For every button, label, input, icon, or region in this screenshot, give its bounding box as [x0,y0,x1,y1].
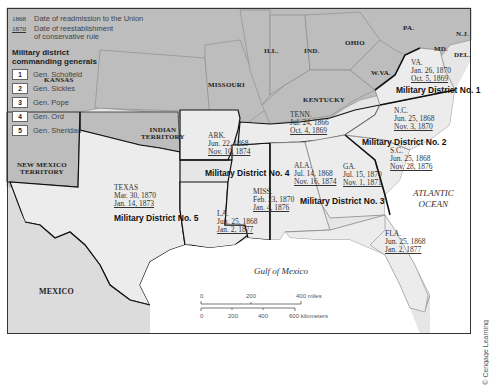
state-nc: N.C. Jun. 25, 1868 Nov. 3, 1870 [394,107,434,131]
conservative-date: Nov. 1, 1871 [343,179,382,187]
legend-general-3: 3Gen. Pope [12,97,143,108]
legend-generals-heading: Military district commanding generals [12,48,143,66]
label-indian-territory: INDIANTERRITORY [141,127,185,142]
legend-general-5: 5Gen. Sheridan [12,125,143,136]
label-west-virginia: W.VA. [371,70,391,77]
label-ohio: OHIO [345,40,365,47]
scale-miles-0: 0 [200,293,203,299]
label-mexico: MEXICO [39,288,74,296]
legend-general-4: 4Gen. Ord [12,111,143,122]
state-ala: ALA. Jul. 14, 1868 Nov. 16, 1874 [294,162,336,186]
label-pennsylvania: PA. [403,25,414,32]
conservative-date: Oct. 5, 1869 [411,75,451,83]
state-tenn: TENN. Jul. 24, 1866 Oct. 4, 1869 [290,111,329,135]
legend-readmission-year: 1868 [12,15,34,23]
label-atlantic-1: ATLANTIC [413,188,454,198]
legend-general-1: 1Gen. Schofield [12,69,143,80]
label-district-3: Military District No. 3 [300,196,385,206]
legend: 1868 Date of readmission to the Union 18… [12,14,143,139]
legend-conservative: 1870 Date of reestablishment of conserva… [12,25,143,42]
legend-readmission: 1868 Date of readmission to the Union [12,14,143,23]
label-kentucky: KENTUCKY [303,97,345,104]
district-number-badge: 1 [12,69,28,80]
state-texas: TEXAS Mar. 30, 1870 Jan. 14, 1873 [114,184,156,208]
conservative-date: Jan. 2, 1877 [217,226,257,234]
legend-conservative-label-2: of conservative rule [34,32,99,41]
district-number-badge: 2 [12,83,28,94]
district-number-badge: 4 [12,111,28,122]
general-name: Gen. Ord [33,112,64,121]
state-fla: FLA. Jun. 25, 1868 Jan. 2, 1877 [385,230,425,254]
state-la: LA. Jun. 25, 1868 Jan. 2, 1877 [217,210,257,234]
scale-km-600: 600 kilometers [289,313,328,319]
scale-km-200: 200 [228,313,238,319]
general-name: Gen. Sickles [33,84,75,93]
conservative-date: Nov. 16, 1874 [294,178,336,186]
label-illinois: ILL. [264,48,279,55]
conservative-date: Nov. 10, 1874 [208,148,250,156]
label-district-5: Military District No. 5 [114,213,199,223]
legend-conservative-year: 1870 [12,25,34,33]
label-indiana: IND. [304,48,319,55]
conservative-date: Jan. 14, 1873 [114,200,156,208]
label-district-2: Military District No. 2 [362,137,447,147]
state-ga: GA. Jul. 15, 1870 Nov. 1, 1871 [343,163,382,187]
label-atlantic-2: OCEAN [419,199,449,209]
scale-miles-200: 200 [246,293,256,299]
label-maryland: MD. [434,46,448,53]
general-name: Gen. Pope [33,98,69,107]
label-district-4: Military District No. 4 [205,168,290,178]
scale-km-400: 400 [258,313,268,319]
conservative-date: Jan. 2, 1877 [385,246,425,254]
label-atlantic-ocean: ATLANTICOCEAN [413,188,454,210]
label-gulf-of-mexico: Gulf of Mexico [254,266,308,277]
state-miss: MISS. Feb. 23, 1870 Jan. 4, 1876 [253,188,294,212]
label-delaware: DEL. [454,52,471,59]
general-name: Gen. Sheridan [33,126,81,135]
state-va: VA. Jan. 26, 1870 Oct. 5, 1869 [411,59,451,83]
legend-generals-heading-1: Military district [12,48,69,57]
label-kansas: KANSAS [44,77,74,84]
legend-readmission-label: Date of readmission to the Union [34,14,143,23]
legend-general-2: 2Gen. Sickles [12,83,143,94]
label-new-mexico-territory: NEW MEXICOTERRITORY [17,162,67,177]
district-number-badge: 3 [12,97,28,108]
label-district-1: Military District No. 1 [396,85,481,95]
conservative-date: Nov. 3, 1870 [394,123,434,131]
label-new-mexico-2: TERRITORY [20,168,64,176]
conservative-date: Jan. 4, 1876 [253,204,294,212]
state-sc: S.C. Jun. 25, 1868 Nov. 28, 1876 [390,147,432,171]
copyright-credit: © Cengage Learning [482,320,489,385]
label-missouri: MISSOURI [208,82,245,89]
conservative-date: Nov. 28, 1876 [390,163,432,171]
label-indian-territory-2: TERRITORY [141,133,185,141]
state-ark: ARK. Jun. 22, 1868 Nov. 10, 1874 [208,132,250,156]
scale-km-0: 0 [200,313,203,319]
scale-bar-lines [200,300,310,314]
conservative-date: Oct. 4, 1869 [290,127,329,135]
legend-generals-heading-2: commanding generals [12,57,97,66]
scale-miles-400: 400 miles [296,293,322,299]
label-new-jersey: N.J. [456,31,469,38]
district-number-badge: 5 [12,125,28,136]
